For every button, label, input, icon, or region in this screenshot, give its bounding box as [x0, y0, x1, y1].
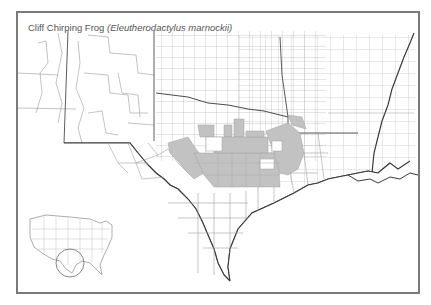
us-inset-map [24, 203, 116, 287]
map-frame: Cliff Chirping Frog (Eleutherodactylus m… [16, 11, 420, 294]
scientific-name: (Eleutherodactylus marnockii) [107, 22, 232, 33]
western-states [18, 33, 154, 143]
map-title: Cliff Chirping Frog (Eleutherodactylus m… [28, 22, 232, 33]
common-name: Cliff Chirping Frog [28, 22, 104, 33]
state-border [64, 31, 68, 143]
